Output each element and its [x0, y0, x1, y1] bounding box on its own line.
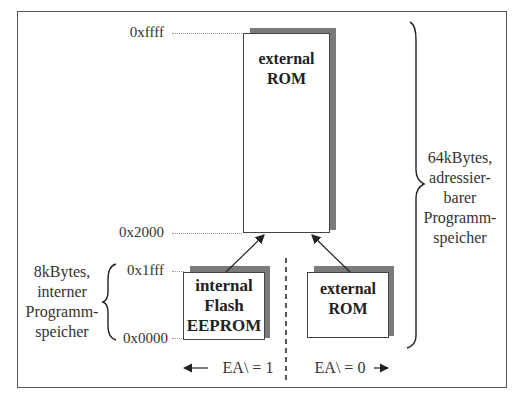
left-brace: [103, 264, 116, 340]
right-brace: [407, 22, 424, 348]
arrow-internal-to-rom: [226, 235, 264, 272]
diagram-lines: [0, 0, 519, 412]
arrow-external-to-rom: [312, 235, 350, 272]
